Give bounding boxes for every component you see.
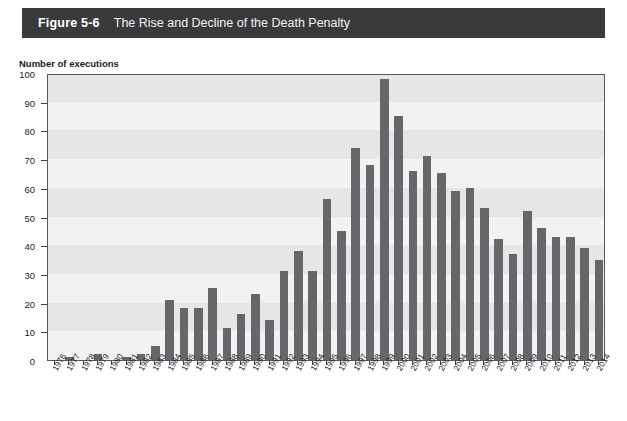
bar	[423, 156, 432, 360]
y-tick-label: 10	[24, 327, 35, 338]
bar	[208, 288, 217, 360]
bar	[437, 173, 446, 360]
bar	[394, 116, 403, 360]
x-axis: 1976197719781979198019811982198319841985…	[47, 361, 605, 419]
y-tick-label: 50	[24, 212, 35, 223]
figure-number: Figure 5-6	[38, 16, 100, 30]
bar	[366, 165, 375, 360]
bars-container	[48, 75, 604, 360]
bar	[509, 254, 518, 360]
bar	[466, 188, 475, 360]
y-tick-label: 70	[24, 155, 35, 166]
bar	[480, 208, 489, 360]
bar	[194, 308, 203, 360]
bar	[380, 79, 389, 360]
y-tick-label: 80	[24, 126, 35, 137]
bar	[280, 271, 289, 360]
chart-plot-area	[47, 74, 605, 361]
bar	[451, 191, 460, 360]
bar	[566, 237, 575, 360]
bar	[180, 308, 189, 360]
bar	[351, 148, 360, 360]
bar	[294, 251, 303, 360]
y-tick-label: 20	[24, 298, 35, 309]
bar	[323, 199, 332, 360]
bar	[552, 237, 561, 360]
bar	[595, 260, 604, 360]
bar	[251, 294, 260, 360]
bar	[537, 228, 546, 360]
y-tick-label: 30	[24, 269, 35, 280]
bar	[580, 248, 589, 360]
bar	[523, 211, 532, 360]
bar	[165, 300, 174, 360]
y-tick-label: 90	[24, 97, 35, 108]
bar	[494, 239, 503, 360]
bar	[409, 171, 418, 360]
figure-header-bar: Figure 5-6 The Rise and Decline of the D…	[22, 8, 605, 38]
bar	[337, 231, 346, 360]
y-tick-label: 100	[19, 69, 35, 80]
bar	[308, 271, 317, 360]
y-tick-label: 60	[24, 183, 35, 194]
y-tick-label: 0	[30, 356, 35, 367]
figure-title: The Rise and Decline of the Death Penalt…	[114, 16, 350, 30]
y-axis-title: Number of executions	[19, 58, 119, 69]
y-axis: 0102030405060708090100	[0, 74, 47, 361]
y-tick-label: 40	[24, 241, 35, 252]
